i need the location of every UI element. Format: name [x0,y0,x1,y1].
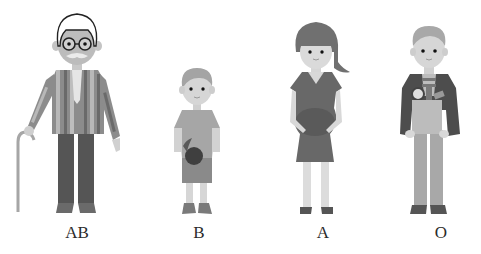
label-pregnant-woman: A [317,224,329,241]
man-with-bag-figure [400,26,460,214]
boy-figure [174,68,220,214]
family-illustration [0,0,481,254]
label-man-with-bag: O [435,224,447,241]
pregnant-woman-figure [290,22,350,214]
label-boy: B [193,224,204,241]
paper-bag-icon [412,100,442,134]
cane-icon [18,132,34,212]
label-grandfather: AB [65,224,89,241]
grandfather-figure [18,14,120,213]
